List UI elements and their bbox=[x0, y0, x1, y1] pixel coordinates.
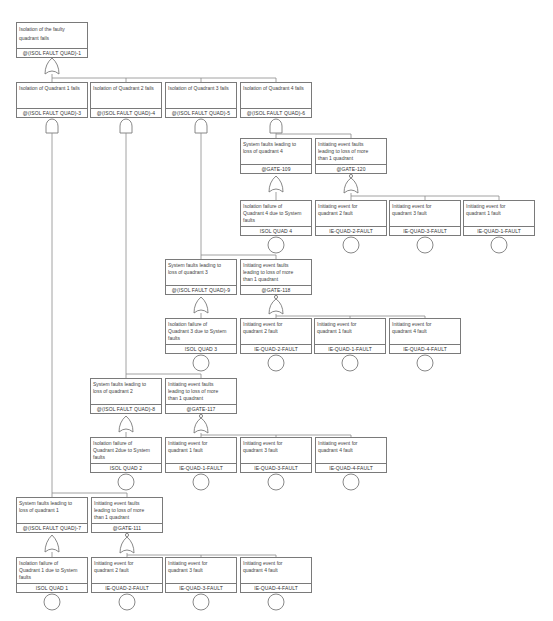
event-id: IE-QUAD-1-FAULT bbox=[166, 463, 236, 472]
event-id: @GATE-111 bbox=[92, 523, 162, 532]
event-id: @GATE-118 bbox=[241, 285, 311, 294]
event-id: IE-QUAD-3-FAULT bbox=[241, 463, 311, 472]
gate-initiating-events-q2[interactable]: Initiating event faults leading to loss … bbox=[165, 378, 237, 414]
event-id: @GATE-109 bbox=[241, 164, 311, 173]
basic-event-box[interactable]: Isolation failure of Quadrant 1 due to S… bbox=[16, 557, 88, 593]
event-description: Initiating event for quadrant 1 fault bbox=[168, 440, 234, 454]
event-description: Initiating event faults leading to loss … bbox=[94, 500, 160, 521]
gate-system-faults-q2[interactable]: System faults leading to loss of quadran… bbox=[90, 378, 162, 414]
event-id: IE-QUAD-3-FAULT bbox=[166, 583, 236, 592]
event-id: @(ISOL FAULT QUAD)-4 bbox=[91, 108, 161, 117]
event-description: System faults leading to loss of quadran… bbox=[93, 381, 159, 395]
event-id: @(ISOL FAULT QUAD)-6 bbox=[241, 108, 311, 117]
gate-initiating-events-q4[interactable]: Initiating event faults leading to loss … bbox=[315, 138, 387, 174]
event-id: ISOL QUAD 1 bbox=[17, 583, 87, 592]
event-description: System faults leading to loss of quadran… bbox=[243, 141, 309, 155]
event-id: IE-QUAD-4-FAULT bbox=[316, 463, 386, 472]
top-event-box[interactable]: Isolation of the faulty quadrant fails @… bbox=[16, 22, 88, 58]
basic-event-box[interactable]: Initiating event for quadrant 4 fault IE… bbox=[240, 557, 312, 593]
basic-event-box[interactable]: Isolation failure of Quadrant 2due to Sy… bbox=[90, 437, 162, 473]
event-id: IE-QUAD-2-FAULT bbox=[316, 226, 386, 235]
event-id: ISOL QUAD 3 bbox=[166, 344, 236, 353]
event-description: Isolation failure of Quadrant 3 due to S… bbox=[168, 321, 234, 342]
event-id: @(ISOL FAULT QUAD)-9 bbox=[166, 285, 236, 294]
basic-event-box[interactable]: Initiating event for quadrant 1 fault IE… bbox=[165, 437, 237, 473]
event-id: IE-QUAD-4-FAULT bbox=[241, 583, 311, 592]
basic-event-box[interactable]: Initiating event for quadrant 3 fault IE… bbox=[389, 200, 461, 236]
event-description: Isolation failure of Quadrant 4 due to S… bbox=[243, 203, 309, 224]
gate-initiating-events-q3[interactable]: Initiating event faults leading to loss … bbox=[240, 259, 312, 295]
event-description: System faults leading to loss of quadran… bbox=[19, 500, 85, 514]
gate-isolation-q4[interactable]: Isolation of Quadrant 4 fails @(ISOL FAU… bbox=[240, 82, 312, 118]
event-description: Initiating event for quadrant 2 fault bbox=[243, 321, 309, 335]
event-description: Initiating event for quadrant 3 fault bbox=[243, 440, 309, 454]
event-id: IE-QUAD-2-FAULT bbox=[92, 583, 162, 592]
event-description: Initiating event faults leading to loss … bbox=[243, 262, 309, 283]
event-description: Isolation failure of Quadrant 2due to Sy… bbox=[93, 440, 159, 461]
event-id: @GATE-120 bbox=[316, 164, 386, 173]
event-description: Initiating event for quadrant 1 fault bbox=[466, 203, 532, 217]
event-id: @(ISOL FAULT QUAD)-5 bbox=[166, 108, 236, 117]
event-description: Initiating event for quadrant 4 fault bbox=[392, 321, 458, 335]
basic-event-box[interactable]: Initiating event for quadrant 3 fault IE… bbox=[165, 557, 237, 593]
gate-system-faults-q1[interactable]: System faults leading to loss of quadran… bbox=[16, 497, 88, 533]
basic-event-box[interactable]: Initiating event for quadrant 3 fault IE… bbox=[240, 437, 312, 473]
event-description: Initiating event faults leading to loss … bbox=[168, 381, 234, 402]
event-id: IE-QUAD-2-FAULT bbox=[241, 344, 311, 353]
event-description: Isolation of Quadrant 2 fails bbox=[93, 85, 159, 92]
basic-event-box[interactable]: Initiating event for quadrant 2 fault IE… bbox=[315, 200, 387, 236]
basic-event-box[interactable]: Initiating event for quadrant 2 fault IE… bbox=[240, 318, 312, 354]
basic-event-box[interactable]: Isolation failure of Quadrant 4 due to S… bbox=[240, 200, 312, 236]
event-id: IE-QUAD-1-FAULT bbox=[315, 344, 385, 353]
event-description: Isolation of the faulty quadrant fails bbox=[19, 25, 85, 43]
event-description: Initiating event faults leading to loss … bbox=[318, 141, 384, 162]
event-id: IE-QUAD-3-FAULT bbox=[390, 226, 460, 235]
event-description: Initiating event for quadrant 4 fault bbox=[318, 440, 384, 454]
event-id: @GATE-117 bbox=[166, 404, 236, 413]
event-description: Initiating event for quadrant 2 fault bbox=[94, 560, 160, 574]
event-description: Isolation of Quadrant 3 fails bbox=[168, 85, 234, 92]
basic-event-box[interactable]: Initiating event for quadrant 4 fault IE… bbox=[389, 318, 461, 354]
event-id: @(ISOL FAULT QUAD)-8 bbox=[91, 404, 161, 413]
or-gate-icon bbox=[45, 58, 59, 74]
gate-system-faults-q3[interactable]: System faults leading to loss of quadran… bbox=[165, 259, 237, 295]
event-description: Isolation of Quadrant 4 fails bbox=[243, 85, 309, 92]
gate-system-faults-q4[interactable]: System faults leading to loss of quadran… bbox=[240, 138, 312, 174]
gate-isolation-q2[interactable]: Isolation of Quadrant 2 fails @(ISOL FAU… bbox=[90, 82, 162, 118]
event-description: Isolation of Quadrant 1 fails bbox=[19, 85, 85, 92]
event-description: System faults leading to loss of quadran… bbox=[168, 262, 234, 276]
event-description: Initiating event for quadrant 4 fault bbox=[243, 560, 309, 574]
fault-tree-canvas: Isolation of the faulty quadrant fails @… bbox=[0, 0, 553, 621]
gate-isolation-q1[interactable]: Isolation of Quadrant 1 fails @(ISOL FAU… bbox=[16, 82, 88, 118]
gate-initiating-events-q1[interactable]: Initiating event faults leading to loss … bbox=[91, 497, 163, 533]
event-description: Initiating event for quadrant 2 fault bbox=[318, 203, 384, 217]
event-id: @(ISOL FAULT QUAD)-3 bbox=[17, 108, 87, 117]
event-id: @(ISOL FAULT QUAD)-1 bbox=[17, 48, 87, 57]
event-id: IE-QUAD-4-FAULT bbox=[390, 344, 460, 353]
basic-event-box[interactable]: Initiating event for quadrant 2 fault IE… bbox=[91, 557, 163, 593]
event-id: ISOL QUAD 4 bbox=[241, 226, 311, 235]
basic-event-box[interactable]: Initiating event for quadrant 4 fault IE… bbox=[315, 437, 387, 473]
event-description: Initiating event for quadrant 3 fault bbox=[168, 560, 234, 574]
event-description: Isolation failure of Quadrant 1 due to S… bbox=[19, 560, 85, 581]
basic-event-box[interactable]: Isolation failure of Quadrant 3 due to S… bbox=[165, 318, 237, 354]
event-id: ISOL QUAD 2 bbox=[91, 463, 161, 472]
event-description: Initiating event for quadrant 1 fault bbox=[317, 321, 383, 335]
gate-isolation-q3[interactable]: Isolation of Quadrant 3 fails @(ISOL FAU… bbox=[165, 82, 237, 118]
basic-event-box[interactable]: Initiating event for quadrant 1 fault IE… bbox=[463, 200, 535, 236]
event-description: Initiating event for quadrant 3 fault bbox=[392, 203, 458, 217]
event-id: @(ISOL FAULT QUAD)-7 bbox=[17, 523, 87, 532]
event-id: IE-QUAD-1-FAULT bbox=[464, 226, 534, 235]
basic-event-box[interactable]: Initiating event for quadrant 1 fault IE… bbox=[314, 318, 386, 354]
